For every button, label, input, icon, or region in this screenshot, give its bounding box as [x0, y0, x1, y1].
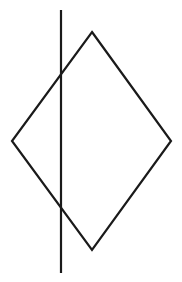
diamond-line-figure	[0, 0, 182, 282]
diamond-shape	[12, 32, 171, 250]
diagram-canvas	[0, 0, 182, 282]
